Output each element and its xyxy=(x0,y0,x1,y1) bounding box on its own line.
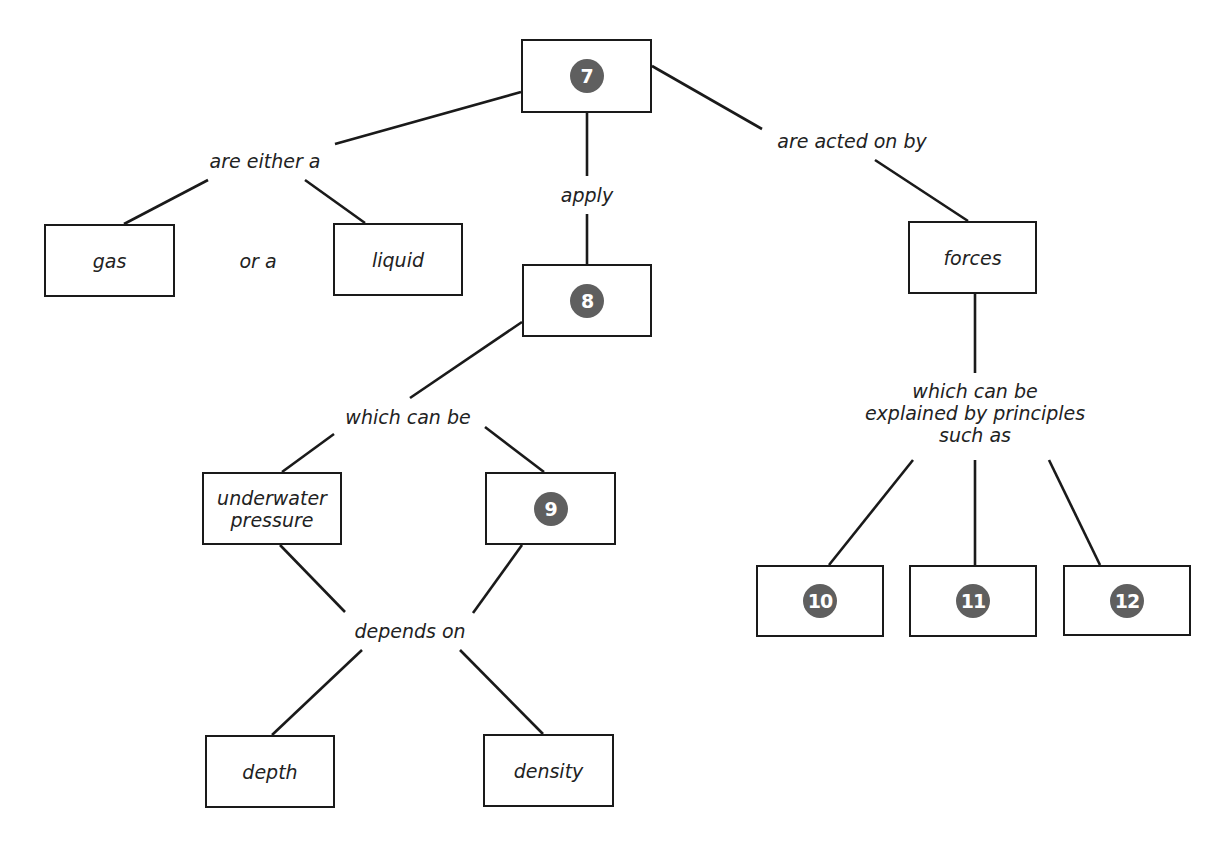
link-label-are-acted-on-by: are acted on by xyxy=(777,130,927,152)
edge-which-can-be-to-9 xyxy=(485,427,544,472)
node-underwater-pressure-line1: underwater xyxy=(217,487,327,509)
edge-are-acted-on-by-to-forces xyxy=(875,160,968,221)
number-badge-10: 10 xyxy=(803,584,837,618)
node-8: 8 xyxy=(522,264,652,337)
node-density: density xyxy=(483,734,614,807)
node-7: 7 xyxy=(521,39,652,113)
edge-are-either-a-to-liquid xyxy=(305,180,365,223)
node-liquid: liquid xyxy=(333,223,463,296)
number-badge-7: 7 xyxy=(570,59,604,93)
edge-8-to-which-can-be xyxy=(410,322,522,398)
node-forces-label: forces xyxy=(943,247,1001,269)
node-underwater-pressure: underwater pressure xyxy=(202,472,342,545)
edge-explained-to-10 xyxy=(829,460,913,565)
edge-depends-on-to-density xyxy=(460,650,543,734)
link-label-explained-line3: such as xyxy=(865,424,1085,446)
node-11: 11 xyxy=(909,565,1037,637)
node-underwater-pressure-line2: pressure xyxy=(231,509,314,531)
link-label-explained-by-principles: which can be explained by principles suc… xyxy=(865,380,1085,446)
node-12: 12 xyxy=(1063,565,1191,636)
edge-7-to-are-acted-on-by xyxy=(652,66,762,129)
link-label-which-can-be: which can be xyxy=(345,406,470,428)
node-forces: forces xyxy=(908,221,1037,294)
number-badge-12: 12 xyxy=(1110,584,1144,618)
edge-are-either-a-to-gas xyxy=(124,180,208,224)
node-10: 10 xyxy=(756,565,884,637)
link-label-explained-line1: which can be xyxy=(865,380,1085,402)
link-label-or-a: or a xyxy=(239,250,276,272)
edge-explained-to-12 xyxy=(1049,460,1100,565)
edge-depends-on-to-depth xyxy=(272,650,362,735)
number-badge-8: 8 xyxy=(570,284,604,318)
number-badge-11: 11 xyxy=(956,584,990,618)
node-depth: depth xyxy=(205,735,335,808)
link-label-apply: apply xyxy=(561,184,613,206)
edge-which-can-be-to-underwater xyxy=(282,434,334,472)
node-gas-label: gas xyxy=(93,250,127,272)
node-depth-label: depth xyxy=(242,761,297,783)
node-gas: gas xyxy=(44,224,175,297)
edge-9-to-depends-on xyxy=(473,545,522,613)
edge-7-to-are-either-a xyxy=(335,92,521,144)
node-9: 9 xyxy=(485,472,616,545)
number-badge-9: 9 xyxy=(534,492,568,526)
link-label-are-either-a: are either a xyxy=(210,150,321,172)
link-label-depends-on: depends on xyxy=(354,620,465,642)
link-label-explained-line2: explained by principles xyxy=(865,402,1085,424)
node-density-label: density xyxy=(514,760,584,782)
node-liquid-label: liquid xyxy=(372,249,424,271)
edge-underwater-to-depends-on xyxy=(280,545,345,612)
